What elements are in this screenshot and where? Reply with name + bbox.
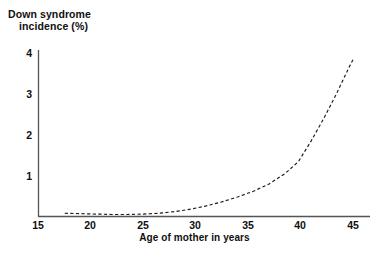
data-series-line [65,60,353,215]
chart-figure: Down syndromeincidence (%) Age of mother… [0,0,389,262]
plot-area [0,0,389,262]
